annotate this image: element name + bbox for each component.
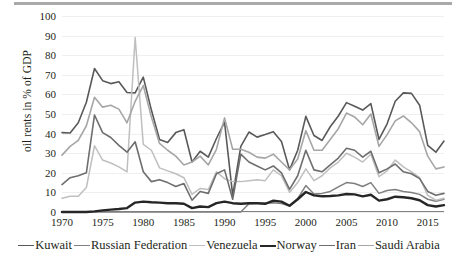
y-axis-tick-label: 40 <box>45 128 56 139</box>
legend-item-saudi-arabia[interactable]: Saudi Arabia <box>356 238 440 253</box>
x-axis-tick-label: 1990 <box>214 217 236 228</box>
x-axis-tick-label: 2005 <box>335 217 357 228</box>
legend-item-label: Kuwait <box>35 238 72 253</box>
legend-line-swatch-icon <box>189 245 205 246</box>
legend-line-swatch-icon <box>18 245 34 246</box>
legend-item-venezuela[interactable]: Venezuela <box>187 238 257 253</box>
y-axis-tick-label: 70 <box>45 69 56 80</box>
legend-item-norway[interactable]: Norway <box>258 238 317 253</box>
x-axis-tick-label: 1980 <box>132 217 154 228</box>
legend-item-kuwait[interactable]: Kuwait <box>16 238 72 253</box>
x-axis-tick-label: 1970 <box>51 217 73 228</box>
y-axis-tick-label: 30 <box>45 148 56 159</box>
y-axis-tick-label: 100 <box>40 11 57 22</box>
legend-item-label: Norway <box>277 238 317 253</box>
legend-line-swatch-icon <box>260 245 276 247</box>
chart-legend: KuwaitRussian FederationVenezuelaNorwayI… <box>0 238 456 253</box>
y-axis-tick-label: 90 <box>45 30 56 41</box>
x-axis-tick-label: 2015 <box>417 217 439 228</box>
series-line-kuwait <box>62 69 444 196</box>
x-axis-tick-label: 1975 <box>92 217 114 228</box>
legend-item-label: Iran <box>336 238 356 253</box>
legend-item-russian-federation[interactable]: Russian Federation <box>72 238 187 253</box>
legend-item-label: Russian Federation <box>91 238 187 253</box>
legend-item-iran[interactable]: Iran <box>317 238 356 253</box>
legend-item-label: Saudi Arabia <box>375 238 440 253</box>
oil-rents-line-chart: oil rents in % of GDP 010203040506070809… <box>0 0 456 265</box>
series-line-iran <box>62 115 444 200</box>
legend-line-swatch-icon <box>358 245 374 246</box>
y-axis-tick-label: 80 <box>45 50 56 61</box>
series-lines <box>62 16 444 212</box>
legend-line-swatch-icon <box>319 245 335 246</box>
y-axis-tick-label: 60 <box>45 89 56 100</box>
x-axis-tick-label: 2000 <box>295 217 317 228</box>
legend-item-label: Venezuela <box>206 238 257 253</box>
series-line-saudi-arabia <box>62 86 444 170</box>
legend-line-swatch-icon <box>74 245 90 246</box>
x-axis-tick-label: 1995 <box>254 217 276 228</box>
series-line-russian-federation <box>62 183 444 212</box>
y-axis-tick-label: 20 <box>45 167 56 178</box>
y-axis-tick-label: 10 <box>45 187 56 198</box>
series-line-norway <box>62 192 444 212</box>
series-line-venezuela <box>62 38 444 201</box>
plot-area: 0102030405060708090100 19701975198019851… <box>62 16 444 212</box>
y-axis-title: oil rents in % of GDP <box>21 16 33 186</box>
x-axis-tick-label: 2010 <box>376 217 398 228</box>
x-axis-tick-label: 1985 <box>173 217 195 228</box>
y-axis-tick-label: 50 <box>45 109 56 120</box>
